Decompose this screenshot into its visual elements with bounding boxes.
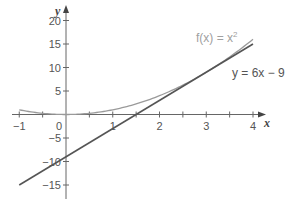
parabola-label-exponent: 2: [233, 30, 238, 39]
y-axis-arrow-icon: [63, 5, 69, 13]
x-tick-label: 4: [250, 120, 256, 132]
parabola-label: f(x) = x2: [196, 30, 238, 45]
parabola-label-base: f(x) = x: [196, 31, 233, 45]
parabola-curve: [19, 39, 253, 114]
y-tick-label: 15: [49, 38, 61, 50]
y-axis-label: y: [53, 4, 61, 18]
y-tick-label: −5: [48, 132, 61, 144]
y-tick-label: 10: [49, 62, 61, 74]
x-tick-label: −1: [13, 120, 26, 132]
x-tick-label: 2: [156, 120, 162, 132]
x-tick-label: 0: [56, 120, 62, 132]
x-tick-label: 3: [203, 120, 209, 132]
x-axis-label: x: [263, 116, 270, 130]
y-tick-label: 5: [55, 85, 61, 97]
tangent-line-label: y = 6x − 9: [232, 66, 285, 80]
y-tick-label: −15: [42, 179, 61, 191]
chart-figure: −1012342015105−5−10−15 x y f(x) = x2 y =…: [0, 0, 293, 208]
